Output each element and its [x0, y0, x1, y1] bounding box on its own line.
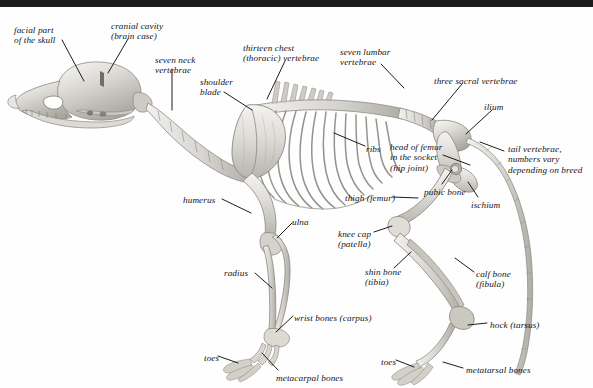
label-ribs: ribs	[366, 144, 381, 154]
leader-ribs	[334, 133, 365, 146]
label-radius: radius	[224, 268, 248, 278]
label-thigh-femur: thigh (femur)	[345, 193, 395, 203]
label-seven-neck-vertebrae: seven neck vertebrae	[155, 55, 196, 76]
tibia-shin-bone	[394, 233, 462, 312]
label-tail-vertebrae: tail vertebrae, numbers vary depending o…	[508, 144, 582, 175]
skeleton-illustration: facial part of the skullcranial cavity (…	[0, 7, 593, 388]
label-ulna: ulna	[292, 217, 309, 227]
label-toes-hind: toes	[381, 357, 396, 367]
temporal-foramen	[87, 111, 93, 116]
radius-bone	[263, 245, 276, 329]
label-knee-cap-patella: knee cap (patella)	[338, 229, 371, 250]
label-wrist-bones-carpus: wrist bones (carpus)	[294, 313, 372, 323]
skull-group	[8, 62, 152, 128]
leader-three-sacral	[432, 84, 462, 120]
leader-metatarsal-bones	[443, 362, 463, 368]
sagittal-crest-mark	[100, 71, 104, 87]
label-humerus: humerus	[183, 195, 215, 205]
label-metatarsal-bones: metatarsal bones	[466, 365, 531, 375]
label-ischium: ischium	[471, 200, 500, 210]
leader-thigh-femur	[392, 197, 418, 198]
thoracic-spine-group	[256, 81, 404, 119]
label-shoulder-blade: shoulder blade	[200, 77, 233, 98]
scapula-group	[232, 105, 285, 179]
label-cranial-cavity-brain-case: cranial cavity (brain case)	[111, 21, 163, 42]
leader-ilium	[466, 110, 492, 134]
rib	[345, 114, 364, 195]
front-toes-shape	[224, 359, 261, 382]
rib	[334, 113, 354, 200]
label-ilium: ilium	[484, 102, 503, 112]
leader-calf-bone	[455, 258, 474, 272]
label-seven-lumbar-vertebrae: seven lumbar vertebrae	[340, 47, 390, 68]
label-calf-bone-fibula: calf bone (fibula)	[476, 269, 511, 290]
skeleton-diagram-page: facial part of the skullcranial cavity (…	[0, 0, 593, 388]
label-shin-bone-tibia: shin bone (tibia)	[365, 267, 401, 288]
head-of-femur-ball	[451, 165, 458, 172]
label-head-of-femur-in-the-socket-hip-joint: head of femur in the socket (hip joint)	[390, 142, 442, 173]
auditory-bulla	[100, 111, 107, 116]
label-thirteen-chest-thoracic-vertebrae: thirteen chest (thoracic) vertebrae	[243, 43, 319, 64]
label-toes-front: toes	[204, 353, 219, 363]
top-black-bar	[0, 0, 593, 7]
label-pubic-bone: pubic bone	[424, 187, 466, 197]
label-hock-tarsus: hock (tarsus)	[490, 320, 540, 330]
shoulder-blade-bone	[232, 105, 285, 179]
eye-socket	[44, 96, 63, 109]
dog-skeleton-drawing	[0, 7, 593, 388]
leader-humerus	[222, 199, 251, 213]
label-metacarpal-bones: metacarpal bones	[276, 373, 343, 383]
label-facial-part-of-the-skull: facial part of the skull	[14, 25, 56, 46]
leader-ulna	[277, 223, 292, 238]
metatarsal-bones-shape	[416, 323, 455, 367]
label-three-sacral-vertebrae: three sacral vertebrae	[434, 76, 518, 86]
hind-toes-shape	[392, 363, 433, 385]
